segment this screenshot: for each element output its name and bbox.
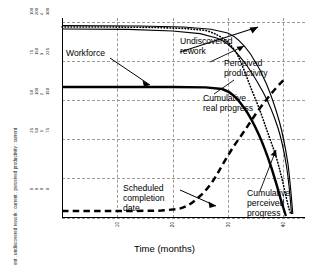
- annotation-workforce: Workforce: [66, 48, 105, 58]
- x-tick-label: 30: [227, 222, 232, 227]
- y-tick-label: 1: [40, 130, 44, 132]
- x-tick-label: 20: [171, 222, 176, 227]
- y-tick-label: 0: [46, 188, 50, 190]
- y-tick-label: 225: [46, 48, 50, 55]
- y-tick-label: 2: [40, 93, 44, 95]
- y-tick-group-top: 100 200 4 300: [30, 8, 50, 15]
- x-tick-label: 40: [282, 222, 287, 227]
- annotation-undiscovered-rework: Undiscovered rework: [180, 36, 233, 56]
- y-tick-label: 300: [46, 8, 50, 15]
- y-tick-group-lower: 25 50 1 75: [30, 128, 50, 133]
- annotation-scheduled-completion-date: Scheduled completion date: [123, 183, 165, 214]
- annotation-cumulative-real-progress: Cumulative real progress: [203, 93, 253, 113]
- x-tick-label: 10: [116, 222, 121, 227]
- x-axis-title: Time (months): [0, 243, 329, 254]
- annotation-cumulative-perceived-progress: Cumulative perceived progress: [247, 188, 290, 219]
- annotation-perceived-productivity: Perceived productivity: [224, 58, 267, 78]
- y-tick-group-upper: 75 150 3 225: [30, 48, 50, 55]
- y-tick-label: 0: [40, 188, 44, 190]
- y-tick-label: 3: [40, 53, 44, 55]
- y-tick-label: 75: [46, 128, 50, 133]
- y-tick-label: 4: [40, 13, 44, 15]
- chart-container: workforce : current . cumulative real pr…: [0, 0, 329, 265]
- y-tick-group-mid: 50 100 2 150: [30, 88, 50, 95]
- y-tick-label: 150: [46, 88, 50, 95]
- y-tick-group-bottom: 0 0 0 0: [30, 188, 50, 190]
